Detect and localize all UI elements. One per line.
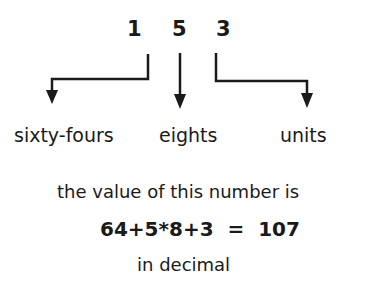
- label-units: units: [280, 126, 327, 145]
- arrow-to-sixty-fours-icon: [52, 54, 148, 92]
- arrowhead-sixty-fours-icon: [46, 90, 58, 104]
- arrows: [0, 0, 367, 292]
- arrow-to-units-icon: [216, 53, 307, 95]
- value-sentence: the value of this number is: [57, 183, 299, 201]
- label-eights: eights: [159, 126, 217, 145]
- arrowhead-eights-icon: [174, 94, 186, 109]
- label-sixty-fours: sixty-fours: [14, 126, 114, 145]
- in-decimal-label: in decimal: [137, 256, 230, 274]
- arrowhead-units-icon: [301, 93, 313, 108]
- equation: 64+5*8+3 = 107: [100, 219, 300, 239]
